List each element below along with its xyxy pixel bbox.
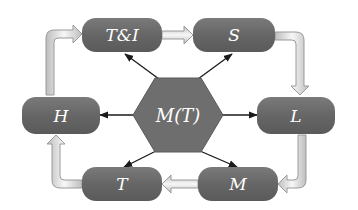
flow-arrow-l-to-m [278,135,306,193]
arrow-hub-to-ti [125,54,159,79]
arrow-hub-to-s [198,54,232,79]
node-ti: T&I [82,18,162,52]
hub-node: M(T) [133,78,223,152]
flow-arrow-s-to-l [275,32,309,95]
node-s: S [193,18,275,52]
node-l-label: L [289,106,301,126]
arrow-hub-to-m [200,151,237,167]
cycle-diagram: M(T) T&I S L M T H [0,0,358,210]
node-l: L [257,97,335,134]
node-t-label: T [116,174,129,194]
node-t: T [82,167,162,201]
flow-arrow-ti-to-s [162,26,193,44]
node-s-label: S [228,25,240,45]
node-ti-label: T&I [105,25,138,45]
flow-arrow-h-to-ti [46,25,82,95]
node-h: H [22,97,100,134]
node-h-label: H [53,106,70,126]
flow-arrow-m-to-t [162,175,198,193]
node-m: M [198,167,278,201]
hub-label: M(T) [155,105,200,126]
arrow-hub-to-t [124,151,156,167]
flow-arrow-t-to-h [47,135,82,188]
node-m-label: M [228,174,247,194]
